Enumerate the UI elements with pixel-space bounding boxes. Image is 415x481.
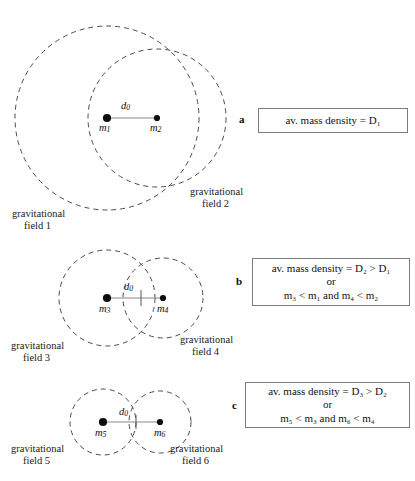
mass-dot-m3 — [103, 294, 111, 302]
gravitational-field-figure: d0 m1 m2 gravitational field 1 gravitati… — [0, 0, 415, 481]
field-circle-4 — [123, 258, 203, 338]
mass-dot-m2 — [154, 115, 160, 121]
note-box-c: av. mass density = D₃ > D₂ or m₅ < m₃ an… — [245, 382, 410, 428]
note-box-b: av. mass density = D₂ > D₁ or m₃ < m₁ an… — [252, 258, 410, 306]
field-label-3: gravitational field 3 — [11, 340, 64, 363]
field-label-6: gravitational field 6 — [170, 443, 223, 466]
note-box-a: av. mass density = D₁ — [258, 108, 408, 133]
mass-dot-m5 — [99, 418, 107, 426]
note-line-c-3: m₅ < m₃ and m₆ < m₄ — [280, 412, 374, 426]
mass-label-m4: m4 — [157, 303, 168, 315]
mass-label-m5: m5 — [95, 427, 106, 439]
distance-label-b: d0 — [124, 281, 133, 293]
note-line-c-2: or — [323, 398, 332, 412]
mass-dot-m6 — [157, 419, 163, 425]
mass-label-m1: m1 — [99, 122, 110, 134]
mass-label-m2: m2 — [150, 122, 161, 134]
field-label-2: gravitational field 2 — [190, 186, 243, 209]
field-label-1: gravitational field 1 — [12, 208, 65, 231]
mass-dot-m4 — [160, 295, 166, 301]
note-line-b-3: m₃ < m₁ and m₄ < m₂ — [284, 289, 378, 303]
panel-letter-b: b — [236, 275, 242, 287]
field-circle-2 — [88, 49, 226, 187]
field-label-4: gravitational field 4 — [180, 334, 233, 357]
panel-letter-c: c — [232, 399, 237, 411]
distance-label-a: d0 — [121, 100, 130, 112]
field-circle-1 — [15, 26, 199, 210]
mass-label-m3: m3 — [99, 303, 110, 315]
mass-dot-m1 — [103, 114, 111, 122]
panel-letter-a: a — [239, 113, 245, 125]
mass-label-m6: m6 — [154, 427, 165, 439]
field-circle-5 — [70, 389, 136, 455]
note-line-b-2: or — [326, 275, 335, 289]
distance-label-c: d0 — [119, 406, 128, 418]
field-label-5: gravitational field 5 — [11, 443, 64, 466]
note-line-b-1: av. mass density = D₂ > D₁ — [272, 262, 391, 276]
note-line-a-1: av. mass density = D₁ — [285, 114, 380, 128]
field-circle-3 — [59, 250, 155, 346]
note-line-c-1: av. mass density = D₃ > D₂ — [268, 385, 387, 399]
